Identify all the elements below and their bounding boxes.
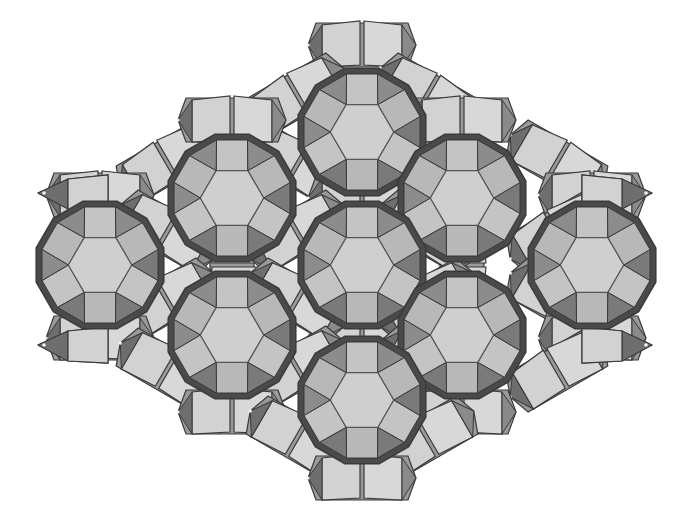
cage-square-face xyxy=(216,140,248,171)
cage-square-face xyxy=(346,427,378,458)
cage-square-face xyxy=(84,207,116,238)
cage-square-face xyxy=(346,74,378,105)
supercage-lower-left xyxy=(168,271,296,399)
cage-square-face xyxy=(346,207,378,238)
vertex-dot xyxy=(536,336,539,339)
cage-square-face xyxy=(346,342,378,373)
cage-square-face xyxy=(84,292,116,323)
supercage-upper-left xyxy=(168,134,296,262)
supercage-bottom xyxy=(298,336,426,464)
spike-face xyxy=(582,327,622,363)
cage-square-face xyxy=(446,140,478,171)
cage-square-face xyxy=(576,207,608,238)
vertex-dot xyxy=(536,193,539,196)
cage-square-face xyxy=(446,277,478,308)
cage-square-face xyxy=(346,159,378,190)
cage-square-face xyxy=(446,362,478,393)
cage-square-face xyxy=(216,277,248,308)
vertex-dot xyxy=(644,191,648,195)
vertex-dot xyxy=(306,43,309,46)
vertex-dot xyxy=(44,336,47,339)
cage-square-face xyxy=(346,292,378,323)
vertex-dot xyxy=(306,476,309,479)
framework-diagram xyxy=(0,0,689,531)
supercage-left xyxy=(36,201,164,329)
vertex-dot xyxy=(644,343,648,347)
vertex-dot xyxy=(176,118,179,121)
framework-figure xyxy=(0,0,689,531)
vertex-dot xyxy=(42,191,46,195)
cage-square-face xyxy=(216,225,248,256)
supercage-right xyxy=(528,201,656,329)
vertex-dot xyxy=(176,410,179,413)
cage-square-face xyxy=(576,292,608,323)
vertex-dot xyxy=(42,343,46,347)
spike-face xyxy=(68,327,108,363)
cage-square-face xyxy=(216,362,248,393)
cage-square-face xyxy=(446,225,478,256)
